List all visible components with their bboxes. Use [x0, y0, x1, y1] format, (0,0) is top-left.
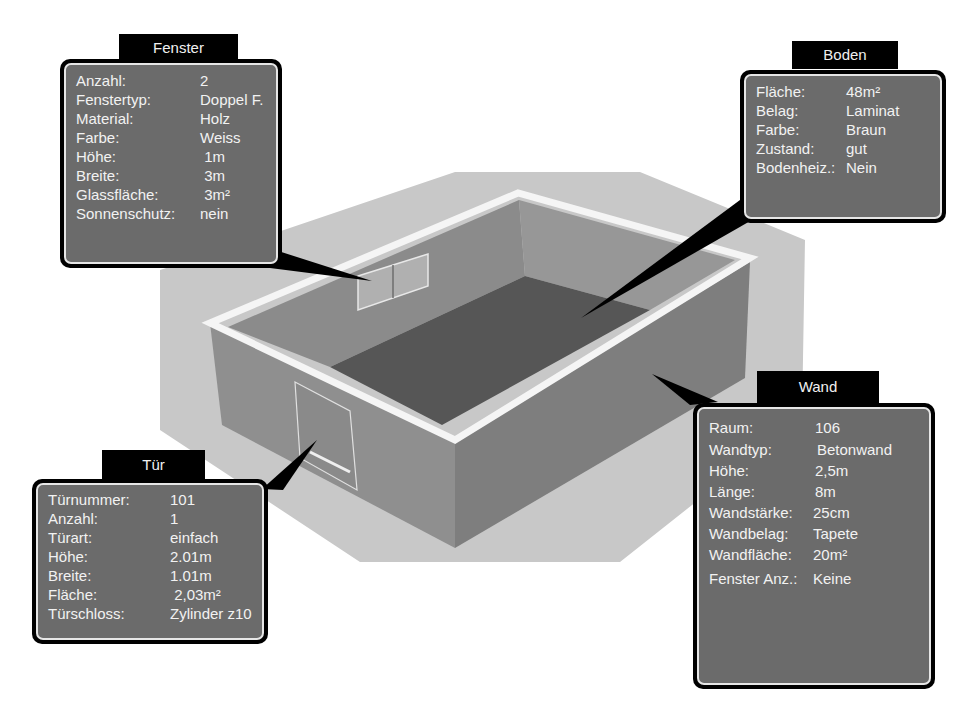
- fenster-row: Fenstertyp:Doppel F.: [76, 90, 268, 109]
- fenster-title: Fenster: [119, 34, 238, 62]
- tuer-row: Türart:einfach: [48, 528, 254, 547]
- fenster-row: Glassfläche: 3m²: [76, 185, 268, 204]
- fenster-row: Sonnenschutz:nein: [76, 204, 268, 223]
- tuer-info-panel: Türnummer:101 Anzahl:1 Türart:einfach Hö…: [32, 479, 268, 644]
- boden-row: Belag:Laminat: [756, 101, 932, 120]
- fenster-row: Breite: 3m: [76, 166, 268, 185]
- tuer-title: Tür: [102, 450, 205, 480]
- boden-row: Farbe:Braun: [756, 120, 932, 139]
- tuer-row: Fläche: 2,03m²: [48, 585, 254, 604]
- tuer-row: Breite:1.01m: [48, 566, 254, 585]
- wand-row: Wandstärke:25cm: [709, 502, 921, 523]
- tuer-row: Höhe:2.01m: [48, 547, 254, 566]
- tuer-row: Türnummer:101: [48, 490, 254, 509]
- boden-info-panel: Fläche:48m² Belag:Laminat Farbe:Braun Zu…: [740, 70, 946, 223]
- wand-row: Fenster Anz.:Keine: [709, 568, 921, 589]
- wand-row: Wandtyp:Betonwand: [709, 439, 921, 460]
- wand-row: Höhe:2,5m: [709, 460, 921, 481]
- tuer-row: Türschloss:Zylinder z10: [48, 604, 254, 623]
- wand-title: Wand: [757, 371, 879, 403]
- tuer-row: Anzahl:1: [48, 509, 254, 528]
- wand-row: Länge:8m: [709, 481, 921, 502]
- wand-row: Wandbelag:Tapete: [709, 523, 921, 544]
- fenster-info-panel: Anzahl:2 Fenstertyp:Doppel F. Material:H…: [60, 59, 282, 268]
- wand-info-panel: Raum:106 Wandtyp:Betonwand Höhe:2,5m Län…: [693, 403, 935, 689]
- fenster-row: Anzahl:2: [76, 71, 268, 90]
- wand-row: Wandfläche:20m²: [709, 544, 921, 565]
- fenster-row: Material:Holz: [76, 109, 268, 128]
- boden-row: Bodenheiz.:Nein: [756, 158, 932, 177]
- fenster-row: Farbe:Weiss: [76, 128, 268, 147]
- wand-row: Raum:106: [709, 417, 921, 438]
- boden-title: Boden: [792, 41, 898, 69]
- boden-row: Zustand:gut: [756, 139, 932, 158]
- boden-row: Fläche:48m²: [756, 82, 932, 101]
- fenster-row: Höhe: 1m: [76, 147, 268, 166]
